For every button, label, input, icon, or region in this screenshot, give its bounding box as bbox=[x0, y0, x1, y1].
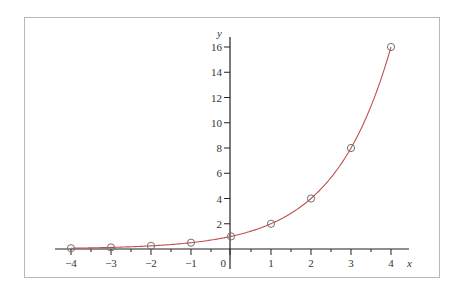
x-tick-label: 4 bbox=[388, 257, 394, 269]
y-tick-label: 14 bbox=[211, 66, 223, 78]
x-tick-label: −3 bbox=[105, 257, 117, 269]
y-tick-label: 16 bbox=[211, 41, 223, 53]
x-tick-label: 0 bbox=[221, 257, 227, 269]
x-tick-label: −1 bbox=[185, 257, 197, 269]
y-tick-label: 12 bbox=[211, 92, 222, 104]
x-tick-label: 2 bbox=[308, 257, 314, 269]
y-axis-label: y bbox=[216, 27, 222, 39]
exponential-chart: −4−3−2−101234246810121416xy bbox=[0, 0, 456, 295]
x-tick-label: −4 bbox=[65, 257, 77, 269]
y-tick-label: 2 bbox=[217, 218, 223, 230]
exponential-curve bbox=[71, 47, 391, 248]
y-tick-label: 6 bbox=[217, 167, 223, 179]
y-tick-label: 10 bbox=[211, 117, 223, 129]
y-tick-label: 4 bbox=[217, 193, 223, 205]
x-tick-label: 3 bbox=[348, 257, 354, 269]
x-axis-label: x bbox=[406, 257, 412, 269]
x-tick-label: 1 bbox=[268, 257, 274, 269]
x-tick-label: −2 bbox=[145, 257, 157, 269]
y-tick-label: 8 bbox=[217, 142, 223, 154]
